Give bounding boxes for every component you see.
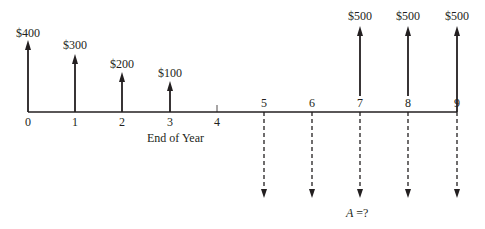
receipt-arrow-7: $500 [348, 9, 372, 96]
disbursement-arrow-6 [309, 112, 315, 198]
period-label-3: 3 [167, 115, 173, 129]
receipt-label-1: $300 [63, 38, 87, 52]
annuity-question: =? [353, 206, 368, 220]
receipt-arrow-1: $300 [63, 38, 87, 112]
period-label-7: 7 [357, 96, 363, 110]
disbursement-arrow-7 [357, 112, 363, 198]
period-label-2: 2 [119, 115, 125, 129]
period-label-8: 8 [405, 96, 411, 110]
receipt-arrow-8: $500 [396, 9, 420, 96]
disbursement-arrow-8 [405, 112, 411, 198]
receipt-arrow-2: $200 [110, 57, 134, 112]
receipt-label-7: $500 [348, 9, 372, 23]
period-label-1: 1 [72, 115, 78, 129]
cash-flow-diagram: $400 $300 $200 $100 $500 $500 $500 [0, 0, 485, 229]
receipt-label-2: $200 [110, 57, 134, 71]
disbursement-arrow-5 [261, 112, 267, 198]
receipt-label-3: $100 [158, 66, 182, 80]
period-label-6: 6 [309, 96, 315, 110]
unknown-annuity-label: A =? [345, 206, 368, 220]
period-label-4: 4 [214, 115, 220, 129]
receipt-label-0: $400 [16, 26, 40, 40]
period-label-9: 9 [454, 96, 460, 110]
receipt-arrow-0: $400 [16, 26, 40, 112]
disbursement-arrow-9 [454, 112, 460, 198]
receipt-label-9: $500 [445, 9, 469, 23]
period-label-0: 0 [25, 115, 31, 129]
receipt-label-8: $500 [396, 9, 420, 23]
receipt-arrow-3: $100 [158, 66, 182, 112]
period-label-5: 5 [261, 96, 267, 110]
axis-caption: End of Year [147, 131, 204, 145]
